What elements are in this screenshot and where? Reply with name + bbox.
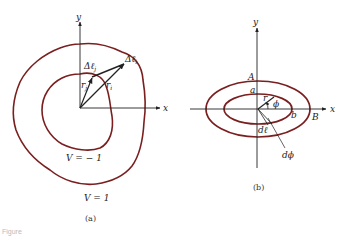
r-j-label: rj <box>81 80 87 92</box>
r-i-label: ri <box>106 80 112 91</box>
phi-arc <box>266 102 268 109</box>
inner-contour-vminus1 <box>42 73 113 150</box>
label-a: a <box>250 85 255 95</box>
label-b: b <box>291 110 297 120</box>
panel-a-label: (a) <box>85 214 96 223</box>
panel-b-label: (b) <box>253 183 264 192</box>
wedge-line-2 <box>258 109 268 125</box>
outer-contour-label: V = 1 <box>84 193 110 203</box>
y-axis-label-a: y <box>75 12 82 22</box>
inner-contour-label: V = − 1 <box>66 153 102 163</box>
delta-l-j-label: Δℓj <box>83 61 96 73</box>
label-r: r <box>263 93 268 103</box>
panel-b: y x A a B b r ϕ dℓ dϕ (b) <box>190 17 335 192</box>
panel-a: y x Δℓi Δℓj ri rj V = − 1 V = 1 (a) <box>13 12 168 223</box>
y-axis-label-b: y <box>252 17 259 27</box>
x-axis-label-a: x <box>163 103 168 113</box>
figure-canvas: y x Δℓi Δℓj ri rj V = − 1 V = 1 (a) y x … <box>0 0 345 236</box>
chord-delta-l <box>92 64 124 77</box>
delta-l-i-label: Δℓi <box>124 54 137 65</box>
label-dphi: dϕ <box>282 150 294 160</box>
outer-contour-v1 <box>13 43 145 184</box>
figure-caption: Figure <box>2 228 22 236</box>
label-B: B <box>311 112 319 122</box>
label-phi: ϕ <box>273 99 279 109</box>
x-axis-label-b: x <box>330 104 335 114</box>
label-A: A <box>247 72 255 82</box>
label-dl: dℓ <box>258 125 268 135</box>
